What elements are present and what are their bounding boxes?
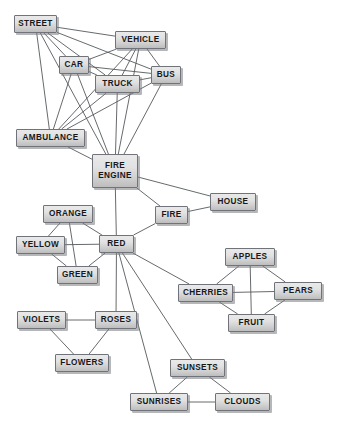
edge-yellow-green xyxy=(52,254,67,266)
node-fire_engine[interactable]: FIRE ENGINE xyxy=(92,154,138,188)
edge-fire_engine-fire xyxy=(137,188,160,206)
node-sunrises[interactable]: SUNRISES xyxy=(130,393,188,411)
node-car[interactable]: CAR xyxy=(59,56,89,74)
edge-fire_engine-house xyxy=(138,177,210,196)
edge-fire-house xyxy=(188,207,210,212)
node-orange[interactable]: ORANGE xyxy=(43,205,93,223)
edge-bus-fire_engine xyxy=(124,84,161,154)
node-vehicle[interactable]: VEHICLE xyxy=(115,31,166,49)
edge-fire-red xyxy=(134,224,155,235)
edge-red-sunsets xyxy=(122,253,191,359)
node-fruit[interactable]: FRUIT xyxy=(228,314,275,332)
edge-street-ambulance xyxy=(37,33,50,129)
node-red[interactable]: RED xyxy=(99,235,134,253)
edge-pears-fruit xyxy=(265,300,285,314)
edge-apples-fruit xyxy=(250,266,251,314)
edge-street-vehicle xyxy=(57,27,115,36)
node-green[interactable]: GREEN xyxy=(57,266,98,284)
edge-vehicle-fire_engine xyxy=(118,49,138,154)
edge-vehicle-car xyxy=(89,49,117,59)
edge-car-bus xyxy=(89,67,151,74)
edge-cherries-pears xyxy=(233,292,274,293)
node-truck[interactable]: TRUCK xyxy=(95,75,140,93)
node-clouds[interactable]: CLOUDS xyxy=(215,393,270,411)
edge-ambulance-fire_engine xyxy=(68,147,92,159)
edge-car-ambulance xyxy=(53,74,71,129)
node-flowers[interactable]: FLOWERS xyxy=(55,354,109,372)
edge-apples-pears xyxy=(263,266,286,282)
edge-sunsets-sunrises xyxy=(169,377,187,393)
semantic-network-diagram: STREETVEHICLECARBUSTRUCKAMBULANCEFIRE EN… xyxy=(0,0,338,425)
edge-red-green xyxy=(89,253,105,266)
node-sunsets[interactable]: SUNSETS xyxy=(170,359,225,377)
edge-red-cherries xyxy=(133,253,189,284)
edge-orange-yellow xyxy=(48,223,60,236)
edge-truck-bus xyxy=(140,78,151,80)
node-ambulance[interactable]: AMBULANCE xyxy=(16,129,85,147)
edge-orange-green xyxy=(69,223,76,266)
node-violets[interactable]: VIOLETS xyxy=(17,311,66,329)
edge-street-car xyxy=(44,33,66,56)
edge-truck-fire_engine xyxy=(115,93,117,154)
edge-cherries-fruit xyxy=(219,302,237,314)
edge-apples-cherries xyxy=(217,266,239,284)
edge-vehicle-bus xyxy=(147,49,159,66)
node-fire[interactable]: FIRE xyxy=(155,206,188,224)
node-roses[interactable]: ROSES xyxy=(95,311,137,329)
node-apples[interactable]: APPLES xyxy=(225,248,275,266)
node-yellow[interactable]: YELLOW xyxy=(16,236,65,254)
node-street[interactable]: STREET xyxy=(14,15,57,33)
node-house[interactable]: HOUSE xyxy=(210,193,256,211)
edge-violets-flowers xyxy=(50,329,74,354)
edge-vehicle-truck xyxy=(122,49,136,75)
node-bus[interactable]: BUS xyxy=(151,66,181,84)
edge-roses-flowers xyxy=(89,329,109,354)
edge-orange-red xyxy=(83,223,102,235)
node-cherries[interactable]: CHERRIES xyxy=(178,284,233,302)
edge-sunsets-clouds xyxy=(209,377,230,393)
edge-fire_engine-red xyxy=(115,188,116,235)
edge-truck-ambulance xyxy=(62,93,107,129)
node-pears[interactable]: PEARS xyxy=(274,282,322,300)
